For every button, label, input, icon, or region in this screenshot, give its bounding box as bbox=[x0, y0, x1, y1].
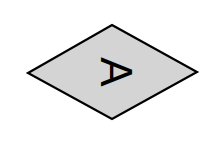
diamond-label: A bbox=[92, 57, 141, 87]
diagram-canvas: A bbox=[0, 0, 208, 160]
